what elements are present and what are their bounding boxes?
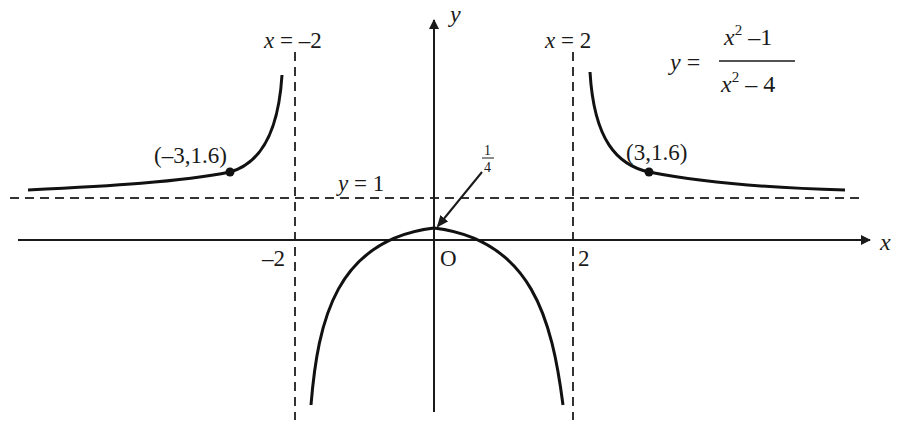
quarter-label: 1 4 — [482, 143, 494, 175]
curve-left-branch — [28, 75, 282, 190]
point-neg3 — [226, 168, 235, 177]
x-axis-label: x — [879, 229, 891, 255]
tick-label-2: 2 — [578, 246, 590, 271]
asymptote-right-label: x = 2 — [544, 28, 591, 53]
tick-label-neg2: –2 — [261, 246, 285, 271]
function-formula: y = x2 –1 x2 – 4 — [668, 22, 795, 97]
svg-text:x2 –1: x2 –1 — [723, 22, 772, 50]
svg-text:y =: y = — [668, 49, 700, 75]
svg-text:x2 – 4: x2 – 4 — [720, 69, 775, 97]
svg-text:1: 1 — [484, 143, 491, 158]
point-right-label: (3,1.6) — [626, 140, 687, 165]
function-graph: y x x = –2 x = 2 y = 1 y = x2 –1 x2 – 4 … — [0, 0, 905, 433]
y-axis-label: y — [448, 1, 461, 27]
asymptote-left-label: x = –2 — [263, 28, 322, 53]
origin-label: O — [440, 246, 457, 271]
curve-middle-branch — [311, 228, 563, 405]
curve-right-branch — [590, 72, 845, 190]
point-left-label: (–3,1.6) — [154, 143, 227, 168]
svg-text:4: 4 — [484, 160, 491, 175]
point-3 — [645, 168, 654, 177]
asymptote-horizontal-label: y = 1 — [336, 171, 384, 196]
